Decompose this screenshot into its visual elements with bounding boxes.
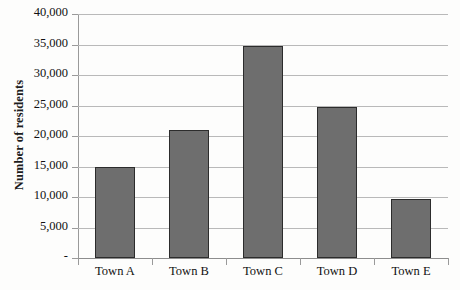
bar: [243, 46, 283, 258]
y-axis-tick-label: 40,000: [0, 5, 68, 20]
bar: [391, 199, 431, 258]
y-axis-tick-label: 30,000: [0, 66, 68, 81]
bar: [95, 167, 135, 259]
x-axis-category-label: Town B: [152, 264, 226, 279]
y-axis-tick-label: 35,000: [0, 36, 68, 51]
axis-baseline: [78, 258, 448, 259]
y-axis-tick-label: 25,000: [0, 97, 68, 112]
bar-chart-screenshot: Number of residents -5,00010,00015,00020…: [0, 0, 460, 290]
y-axis-tick-label: 5,000: [0, 219, 68, 234]
x-axis-tick: [448, 258, 449, 265]
gridline: [78, 14, 448, 15]
y-axis-tick-label: 20,000: [0, 127, 68, 142]
x-axis-category-label: Town A: [78, 264, 152, 279]
y-axis-tick-label: 15,000: [0, 158, 68, 173]
x-axis-category-label: Town C: [226, 264, 300, 279]
bar: [317, 107, 357, 258]
x-axis-category-label: Town D: [300, 264, 374, 279]
x-axis-category-label: Town E: [374, 264, 448, 279]
plot-area: [78, 14, 448, 258]
y-axis-tick-label: -: [0, 249, 68, 264]
y-axis-tick-label: 10,000: [0, 188, 68, 203]
bar: [169, 130, 209, 258]
